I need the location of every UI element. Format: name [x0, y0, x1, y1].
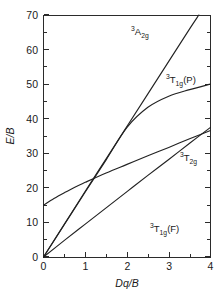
- y-tick-label: 0: [32, 251, 38, 263]
- x-tick-label: 0: [41, 260, 47, 272]
- series-annotation-3t2g: 3T2g: [180, 153, 197, 163]
- x-tick-label: 1: [82, 260, 88, 272]
- y-tick-label: 30: [26, 147, 38, 159]
- right-axis-ticks: [205, 32, 211, 257]
- series-annotation-3a2g: 3A2g: [131, 27, 149, 37]
- series-annotation-3t1g-f: 3T1g(F): [150, 224, 179, 234]
- y-tick-label: 10: [26, 216, 38, 228]
- data-series-group: [44, 15, 211, 257]
- x-axis-title: Dq/B: [115, 277, 138, 289]
- y-tick-label: 40: [26, 113, 38, 125]
- a2g-subscript: 2g: [141, 32, 149, 39]
- x-tick-label: 2: [124, 260, 130, 272]
- t1gp-tail: (P): [183, 74, 196, 85]
- t2g-subscript: 2g: [190, 158, 198, 165]
- t1gf-tail: (F): [167, 223, 179, 234]
- y-axis-title: E/B: [4, 128, 16, 145]
- chart-canvas: 0 10 20 30 40 50 60 70 0 1 2 3 4 E/B Dq/…: [0, 0, 223, 294]
- series-annotation-3t1g-p: 3T1g(P): [166, 75, 196, 85]
- tanabe-sugano-diagram: 0 10 20 30 40 50 60 70 0 1 2 3 4 E/B Dq/…: [0, 0, 223, 294]
- y-tick-labels: 0 10 20 30 40 50 60 70: [26, 9, 38, 263]
- y-tick-label: 50: [26, 78, 38, 90]
- y-tick-label: 60: [26, 44, 38, 56]
- axis-frame: [43, 15, 211, 258]
- x-tick-label: 4: [208, 260, 214, 272]
- series-line-3t2g: [44, 84, 211, 257]
- x-tick-labels: 0 1 2 3 4: [41, 260, 214, 272]
- y-tick-label: 20: [26, 182, 38, 194]
- series-line-3t1g-p: [44, 130, 211, 205]
- y-tick-label: 70: [26, 9, 38, 21]
- series-line-3t1g-f: [44, 127, 211, 257]
- x-axis-major-ticks: [44, 252, 211, 258]
- series-line-3a2g: [44, 15, 199, 257]
- x-tick-label: 3: [166, 260, 172, 272]
